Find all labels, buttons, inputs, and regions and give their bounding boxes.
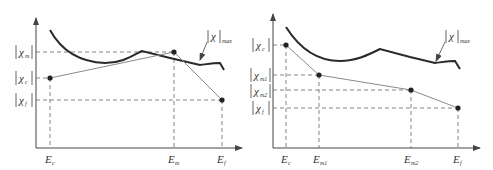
svg-text:f: f bbox=[262, 109, 265, 115]
curve-pointer bbox=[200, 42, 207, 60]
point-m2 bbox=[408, 87, 413, 92]
svg-text:E: E bbox=[403, 153, 411, 165]
svg-text:χ: χ bbox=[18, 46, 25, 58]
svg-text:χ: χ bbox=[210, 30, 217, 42]
x-label-E-f: E f bbox=[216, 153, 227, 166]
chi-max-label: χ max bbox=[208, 30, 232, 44]
svg-text:f: f bbox=[224, 160, 227, 166]
curve-pointer bbox=[436, 42, 445, 61]
svg-text:χ: χ bbox=[255, 39, 262, 51]
point-c bbox=[47, 75, 52, 80]
chi-max-curve bbox=[286, 27, 460, 69]
svg-text:c: c bbox=[25, 79, 28, 85]
svg-text:E: E bbox=[280, 153, 288, 165]
svg-text:χ: χ bbox=[448, 30, 455, 42]
y-label-chi-f: χ f bbox=[16, 93, 32, 107]
x-label-E-c: E c bbox=[44, 153, 55, 166]
svg-text:E: E bbox=[167, 153, 175, 165]
guide-lines bbox=[36, 52, 222, 148]
svg-text:c: c bbox=[288, 160, 291, 166]
point-f bbox=[219, 97, 224, 102]
y-label-chi-c: χ c bbox=[16, 71, 32, 85]
svg-text:c: c bbox=[52, 160, 55, 166]
svg-text:E: E bbox=[452, 153, 460, 165]
guide-lines bbox=[273, 45, 458, 148]
y-label-chi-f: χ f bbox=[253, 101, 269, 115]
y-label-chi-m2: χ m2 bbox=[251, 84, 270, 98]
svg-text:m2: m2 bbox=[411, 160, 418, 166]
point-m bbox=[171, 49, 176, 54]
svg-text:m1: m1 bbox=[320, 160, 327, 166]
chi-max-curve bbox=[50, 30, 224, 70]
x-label-E-c: E c bbox=[280, 153, 291, 166]
y-label-chi-m1: χ m1 bbox=[251, 68, 270, 82]
svg-text:χ: χ bbox=[253, 85, 260, 97]
svg-text:m: m bbox=[25, 53, 30, 59]
svg-text:χ: χ bbox=[18, 72, 25, 84]
svg-text:m: m bbox=[175, 160, 180, 166]
svg-text:E: E bbox=[312, 153, 320, 165]
svg-text:m1: m1 bbox=[260, 76, 267, 82]
svg-text:f: f bbox=[460, 160, 463, 166]
x-label-E-m1: E m1 bbox=[312, 153, 327, 166]
left-diagram: χ max χ m χ c χ f E c E bbox=[16, 18, 242, 166]
right-diagram: χ max χ c χ m1 χ m2 χ f E bbox=[251, 14, 480, 166]
svg-text:E: E bbox=[44, 153, 52, 165]
svg-text:χ: χ bbox=[18, 94, 25, 106]
svg-text:max: max bbox=[460, 38, 470, 44]
x-label-E-m: E m bbox=[167, 153, 180, 166]
svg-text:max: max bbox=[222, 38, 232, 44]
y-label-chi-c: χ c bbox=[253, 38, 269, 52]
trajectory-line bbox=[50, 52, 222, 100]
point-f bbox=[455, 105, 460, 110]
svg-text:χ: χ bbox=[253, 69, 260, 81]
point-c bbox=[283, 42, 288, 47]
svg-text:χ: χ bbox=[255, 102, 262, 114]
y-label-chi-m: χ m bbox=[16, 45, 32, 59]
svg-text:E: E bbox=[216, 153, 224, 165]
diagram-canvas: χ max χ m χ c χ f E c E bbox=[0, 0, 493, 170]
svg-text:c: c bbox=[262, 46, 265, 52]
svg-text:m2: m2 bbox=[260, 92, 267, 98]
svg-text:f: f bbox=[25, 101, 28, 107]
point-m1 bbox=[316, 72, 321, 77]
x-label-E-m2: E m2 bbox=[403, 153, 418, 166]
chi-max-label: χ max bbox=[446, 30, 470, 44]
x-label-E-f: E f bbox=[452, 153, 463, 166]
